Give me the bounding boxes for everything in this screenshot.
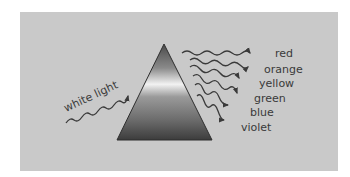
label-yellow: yellow	[259, 77, 294, 90]
ray-red	[182, 51, 250, 55]
prism-diagram: white light red orange yellow green blue…	[0, 0, 350, 177]
label-orange: orange	[264, 63, 303, 76]
ray-yellow	[190, 65, 239, 78]
label-red: red	[275, 47, 293, 60]
white-light-label: white light	[62, 78, 121, 115]
label-violet: violet	[241, 121, 272, 134]
label-green: green	[254, 92, 286, 105]
label-blue: blue	[250, 106, 274, 119]
prism	[117, 44, 212, 140]
ray-orange	[190, 58, 248, 68]
